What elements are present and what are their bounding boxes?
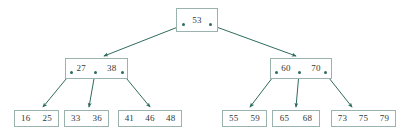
child-pointer-dot-icon [70, 71, 73, 74]
node-internal-right[interactable]: 6070 [270, 58, 332, 79]
key-value: 38 [107, 64, 116, 73]
child-pointer-dot-icon [94, 71, 97, 74]
key-value: 41 [125, 114, 134, 123]
node-leaf-1[interactable]: 1625 [14, 110, 59, 127]
child-pointer-dot-icon [324, 71, 327, 74]
key-value: 79 [380, 114, 389, 123]
node-leaf-5[interactable]: 6568 [272, 110, 320, 127]
key-value: 65 [280, 114, 289, 123]
key-value: 48 [166, 114, 175, 123]
child-pointer-dot-icon [209, 23, 212, 26]
node-leaf-6[interactable]: 737579 [331, 110, 396, 127]
key-value: 68 [303, 114, 312, 123]
key-value: 73 [338, 114, 347, 123]
key-value: 16 [21, 114, 30, 123]
key-value: 59 [251, 114, 260, 123]
key-value: 46 [145, 114, 154, 123]
key-value: 70 [311, 64, 320, 73]
node-root[interactable]: 53 [176, 8, 218, 32]
key-value: 60 [281, 64, 290, 73]
node-leaf-4[interactable]: 5559 [222, 110, 267, 127]
child-pointer-dot-icon [182, 23, 185, 26]
child-pointer-dot-icon [275, 71, 278, 74]
child-pointer-dot-icon [298, 71, 301, 74]
child-pointer-dot-icon [121, 71, 124, 74]
key-value: 75 [359, 114, 368, 123]
edge-root-to-internal-right [211, 25, 296, 56]
node-leaf-3[interactable]: 414648 [118, 110, 182, 127]
key-value: 53 [192, 16, 201, 25]
key-value: 33 [71, 114, 80, 123]
node-leaf-2[interactable]: 3336 [64, 110, 109, 127]
key-value: 25 [43, 114, 52, 123]
key-value: 27 [77, 64, 86, 73]
key-value: 36 [93, 114, 102, 123]
key-value: 55 [229, 114, 238, 123]
edge-root-to-internal-left [104, 25, 183, 56]
node-internal-left[interactable]: 2738 [65, 58, 128, 79]
b-tree-diagram: 53273860701625333641464855596568737579 [0, 0, 407, 135]
